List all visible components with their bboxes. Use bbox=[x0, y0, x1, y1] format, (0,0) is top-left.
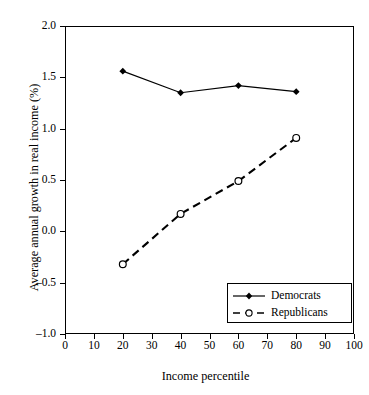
y-tick-mark bbox=[60, 129, 65, 130]
x-tick-label: 90 bbox=[319, 340, 331, 352]
legend-item-democrats: Democrats bbox=[232, 287, 347, 304]
legend-label-republicans: Republicans bbox=[266, 307, 328, 319]
y-tick-label: 2.0 bbox=[42, 20, 56, 32]
x-tick-label: 40 bbox=[175, 340, 187, 352]
legend-item-republicans: Republicans bbox=[232, 304, 347, 321]
x-tick-label: 80 bbox=[290, 340, 302, 352]
x-tick-label: 30 bbox=[146, 340, 158, 352]
y-tick-label: 1.0 bbox=[42, 123, 56, 135]
y-tick-label: –1.0 bbox=[36, 328, 56, 340]
chart-figure: –1.0–0.50.00.51.01.52.0 0102030405060708… bbox=[0, 0, 369, 395]
y-tick-mark bbox=[60, 26, 65, 27]
y-tick-mark bbox=[60, 283, 65, 284]
x-tick-label: 100 bbox=[345, 340, 362, 352]
y-tick-label: 0.0 bbox=[42, 225, 56, 237]
y-tick-label: 1.5 bbox=[42, 71, 56, 83]
legend-sample-dashed-circle bbox=[232, 306, 266, 320]
legend-label-democrats: Democrats bbox=[266, 290, 321, 302]
x-tick-label: 70 bbox=[262, 340, 274, 352]
y-tick-label: 0.5 bbox=[42, 174, 56, 186]
x-tick-label: 20 bbox=[117, 340, 129, 352]
y-tick-mark bbox=[60, 180, 65, 181]
x-tick-label: 10 bbox=[88, 340, 100, 352]
x-tick-label: 0 bbox=[62, 340, 68, 352]
chart-legend: Democrats Republicans bbox=[227, 283, 352, 323]
legend-sample-solid-diamond bbox=[232, 289, 266, 303]
x-tick-label: 60 bbox=[233, 340, 245, 352]
x-axis-title: Income percentile bbox=[0, 369, 369, 384]
y-axis-title: Average annual growth in real income (%) bbox=[27, 58, 42, 318]
x-tick-label: 50 bbox=[204, 340, 216, 352]
y-tick-mark bbox=[60, 231, 65, 232]
y-tick-mark bbox=[60, 77, 65, 78]
